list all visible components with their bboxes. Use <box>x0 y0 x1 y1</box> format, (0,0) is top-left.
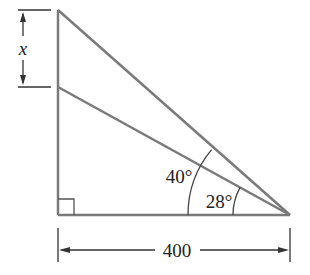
x-label: x <box>18 38 28 59</box>
inner-hypotenuse <box>58 87 290 215</box>
triangle-diagram: x 400 40° 28° <box>0 0 310 275</box>
base-dim-arrow-left-icon <box>59 247 70 253</box>
angle-label-28: 28° <box>206 191 233 212</box>
right-angle-marker <box>58 199 74 215</box>
angle-arc-28 <box>233 187 240 215</box>
x-dim-arrow-down-icon <box>20 75 26 85</box>
x-dim-arrow-up-icon <box>20 12 26 22</box>
base-label: 400 <box>163 240 192 261</box>
angle-label-40: 40° <box>166 166 193 187</box>
base-dim-arrow-right-icon <box>278 247 289 253</box>
